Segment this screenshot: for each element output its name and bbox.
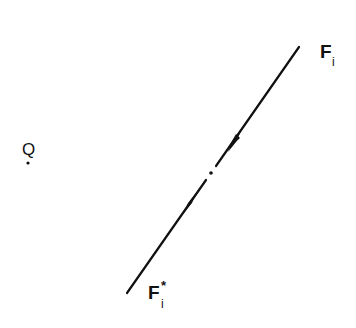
label-f-i-star: F * i: [148, 283, 178, 323]
point-q-dot: [26, 161, 29, 164]
arrow-upper-spindle: [228, 131, 241, 152]
label-f-i: F i: [320, 42, 350, 72]
diagram-canvas: Q F i F * i: [0, 0, 356, 328]
point-q-label: Q: [22, 141, 35, 158]
arrow-lower-spindle: [183, 193, 196, 214]
label-f-i-main: F: [320, 42, 332, 61]
diagram-drawing: [0, 0, 356, 328]
label-f-i-star-main: F: [148, 283, 160, 302]
label-f-i-star-superscript: *: [161, 279, 166, 292]
label-f-i-star-subscript: i: [161, 298, 164, 310]
label-f-i-subscript: i: [332, 56, 335, 68]
center-point: [209, 171, 213, 175]
